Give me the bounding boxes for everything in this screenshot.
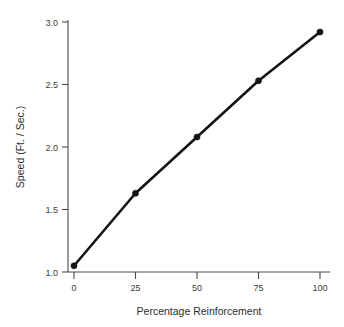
x-tick-label: 25 (130, 283, 140, 293)
data-point (194, 134, 200, 140)
x-tick-label: 100 (312, 283, 327, 293)
x-tick-label: 0 (71, 283, 76, 293)
line-chart: 3.0 2.5 2.0 1.5 1.0 0 25 50 75 100 Perce… (0, 0, 344, 327)
data-point (132, 190, 138, 196)
y-tick-label: 2.5 (45, 80, 58, 90)
data-point (71, 263, 77, 269)
y-tick-label: 1.0 (45, 268, 58, 278)
data-point (255, 78, 261, 84)
y-axis-title: Speed (Ft. / Sec.) (14, 106, 26, 188)
y-tick-label: 1.5 (45, 205, 58, 215)
chart-background (0, 0, 344, 327)
x-tick-label: 50 (192, 283, 202, 293)
x-axis-title: Percentage Reinforcement (137, 305, 262, 317)
figure-container: 3.0 2.5 2.0 1.5 1.0 0 25 50 75 100 Perce… (0, 0, 344, 327)
x-tick-label: 75 (253, 283, 263, 293)
data-point (317, 29, 323, 35)
caption-fragment (0, 320, 344, 327)
y-tick-label: 3.0 (45, 18, 58, 28)
y-tick-label: 2.0 (45, 143, 58, 153)
